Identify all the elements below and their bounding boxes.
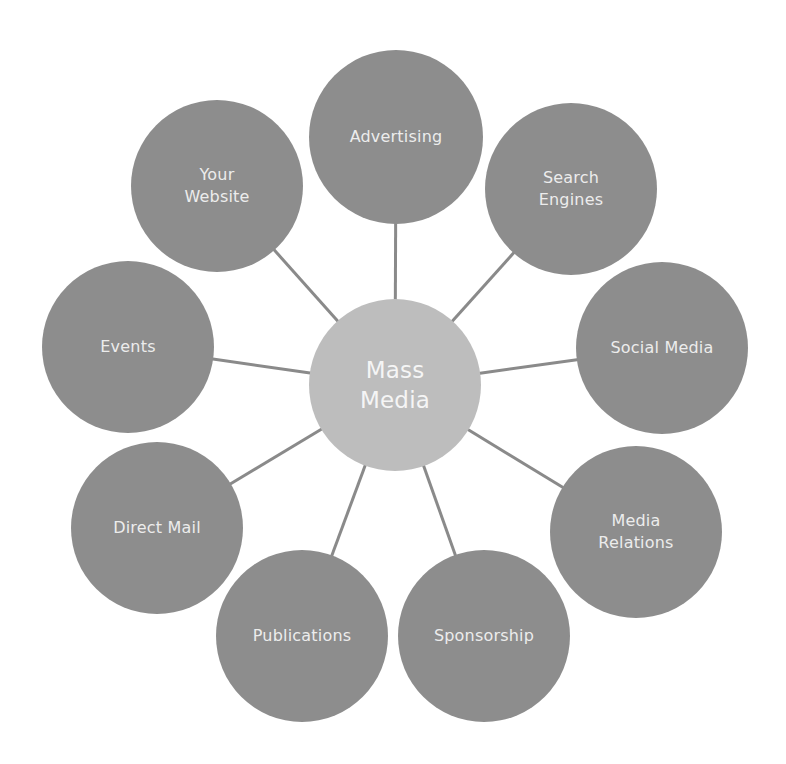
node-label: Mass Media (352, 355, 438, 415)
node-label: Publications (245, 625, 360, 647)
connector-your-website (273, 249, 339, 323)
connector-search-engines (451, 252, 515, 323)
node-sponsorship: Sponsorship (398, 550, 570, 722)
node-your-website: Your Website (131, 100, 303, 272)
node-label: Sponsorship (426, 625, 542, 647)
node-media-relations: Media Relations (550, 446, 722, 618)
connector-social-media (478, 360, 579, 374)
connector-media-relations (467, 429, 565, 489)
node-label: Advertising (342, 126, 451, 148)
node-label: Media Relations (590, 510, 681, 554)
node-label: Events (92, 336, 163, 358)
connector-publications (331, 464, 366, 557)
center-node: Mass Media (309, 299, 481, 471)
node-label: Social Media (603, 337, 722, 359)
node-advertising: Advertising (309, 50, 483, 224)
node-social-media: Social Media (576, 262, 748, 434)
mass-media-diagram: AdvertisingSearch EnginesSocial MediaMed… (0, 0, 786, 764)
node-label: Your Website (176, 164, 257, 208)
node-publications: Publications (216, 550, 388, 722)
node-label: Direct Mail (105, 517, 209, 539)
connector-direct-mail (229, 428, 323, 484)
node-events: Events (42, 261, 214, 433)
node-direct-mail: Direct Mail (71, 442, 243, 614)
node-label: Search Engines (531, 167, 612, 211)
connector-events (211, 359, 312, 373)
node-search-engines: Search Engines (485, 103, 657, 275)
connector-sponsorship (423, 464, 456, 557)
